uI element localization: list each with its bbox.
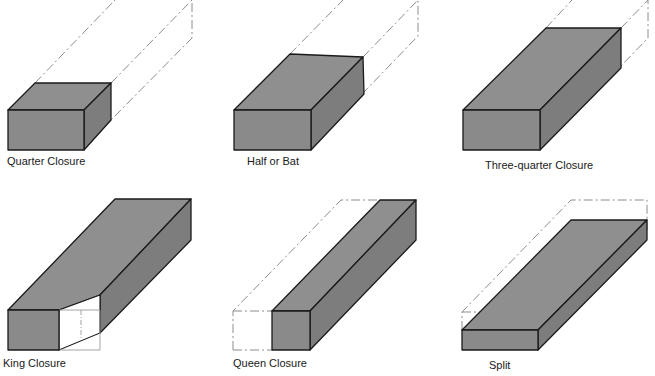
label-three-quarter-closure: Three-quarter Closure xyxy=(485,159,593,171)
label-half-or-bat: Half or Bat xyxy=(247,155,299,167)
label-split: Split xyxy=(489,359,510,371)
brick-closures-diagram xyxy=(0,0,655,376)
label-king-closure: King Closure xyxy=(3,357,66,369)
king-closure-brick xyxy=(8,199,191,350)
three-quarter-closure-brick xyxy=(463,0,648,150)
quarter-closure-brick xyxy=(8,0,192,150)
label-quarter-closure: Quarter Closure xyxy=(7,155,85,167)
queen-closure-brick xyxy=(233,200,416,350)
half-bat-brick xyxy=(234,0,418,150)
label-queen-closure: Queen Closure xyxy=(233,357,307,369)
split-brick xyxy=(462,200,647,350)
